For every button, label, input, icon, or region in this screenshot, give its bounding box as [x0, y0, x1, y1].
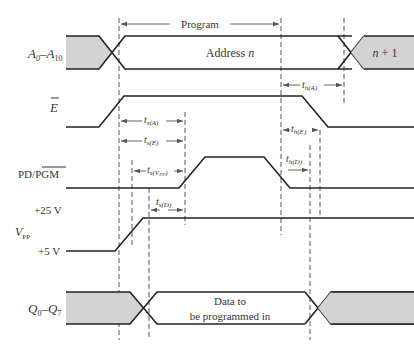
timing-th-d: th(D): [286, 153, 303, 166]
timing-ts-a: ts(A): [144, 114, 159, 127]
data-line1: Data to: [214, 295, 247, 307]
data-invalid-left: [66, 292, 143, 324]
timing-th-a: th(A): [302, 79, 318, 92]
address-next-label: n + 1: [373, 46, 398, 60]
pd-pgm-waveform: [66, 157, 414, 188]
timing-ts-d: ts(D): [156, 196, 172, 209]
timing-ts-vpp: ts(VPP): [147, 164, 168, 177]
vpp-waveform: [66, 218, 414, 251]
address-invalid-left: [66, 36, 111, 69]
address-signal-label: A0–A10: [27, 46, 62, 63]
vpp-low-level: +5 V: [38, 245, 60, 257]
timing-ts-e: ts(E): [144, 134, 159, 147]
enable-signal-label: E: [49, 100, 58, 115]
address-n-label: Address n: [206, 46, 254, 60]
timing-diagram: Program A0–A10 Address n n + 1 th(A) E t…: [0, 0, 414, 357]
vpp-high-level: +25 V: [34, 204, 62, 216]
enable-waveform: [66, 96, 414, 127]
vpp-signal-label: VPP: [15, 225, 30, 241]
data-invalid-right: [318, 292, 414, 324]
timing-th-e: th(E): [291, 123, 307, 136]
pd-pgm-signal-label: PD/PGM: [18, 168, 59, 180]
program-label: Program: [181, 18, 219, 30]
data-signal-label: Q0–Q7: [28, 301, 61, 318]
data-line2: be programmed in: [190, 310, 271, 322]
